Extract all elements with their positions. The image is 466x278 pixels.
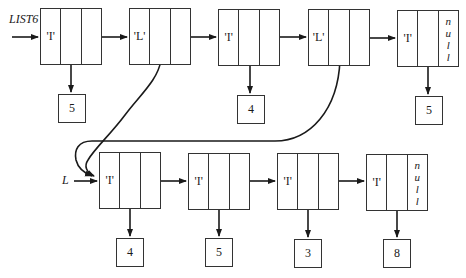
- next-pointer-cell: [140, 153, 160, 208]
- next-pointer-cell: [318, 154, 338, 209]
- value-box: 4: [116, 238, 144, 267]
- value-box: 5: [205, 238, 233, 267]
- value-pointer-cell: [208, 154, 228, 209]
- list6-node-4: 'L': [308, 9, 370, 66]
- null-letter: l: [416, 195, 419, 207]
- l-node-4: 'I' n u l l: [366, 154, 428, 211]
- l-node-3: 'I': [277, 153, 339, 210]
- value-box: 5: [415, 96, 443, 125]
- tag-cell: 'I': [278, 154, 297, 209]
- null-cell: n u l l: [407, 155, 427, 210]
- next-pointer-cell: [259, 10, 279, 65]
- null-letter: l: [447, 51, 450, 63]
- value-pointer-cell: [119, 153, 139, 208]
- null-letter: n: [415, 159, 421, 171]
- tag-cell: 'I': [100, 153, 119, 208]
- l-node-1: 'I': [99, 152, 161, 209]
- list6-node-2: 'L': [129, 8, 191, 65]
- list6-node-5: 'I' n u l l: [397, 10, 459, 67]
- value-pointer-cell: [60, 9, 80, 64]
- tag-cell: 'I': [189, 154, 208, 209]
- value-box: 8: [383, 239, 411, 268]
- tag-cell: 'L': [309, 10, 328, 65]
- value-pointer-cell: [238, 10, 258, 65]
- null-letter: u: [415, 171, 421, 183]
- l-node-2: 'I': [188, 153, 250, 210]
- value-pointer-cell: [417, 11, 437, 66]
- value-pointer-cell: [386, 155, 406, 210]
- list6-label: LIST6: [9, 12, 38, 27]
- linked-list-diagram: LIST6 L 'I' 'L' 'I' 'L' 'I' n u l l 5 4 …: [0, 0, 466, 278]
- tag-cell: 'I': [398, 11, 417, 66]
- tag-cell: 'I': [219, 10, 238, 65]
- sublist-pointer-cell: [328, 10, 348, 65]
- null-letter: n: [446, 15, 452, 27]
- value-box: 3: [294, 239, 322, 268]
- null-letter: u: [446, 27, 452, 39]
- list6-node-1: 'I': [40, 8, 102, 65]
- tag-cell: 'I': [367, 155, 386, 210]
- next-pointer-cell: [229, 154, 249, 209]
- value-box: 5: [58, 94, 86, 123]
- l-label: L: [62, 173, 69, 188]
- null-letter: l: [447, 39, 450, 51]
- value-box: 4: [237, 95, 265, 124]
- next-pointer-cell: [170, 9, 190, 64]
- next-pointer-cell: [349, 10, 369, 65]
- sublist-pointer-cell: [149, 9, 169, 64]
- next-pointer-cell: [81, 9, 101, 64]
- value-pointer-cell: [297, 154, 317, 209]
- null-letter: l: [416, 183, 419, 195]
- tag-cell: 'I': [41, 9, 60, 64]
- null-cell: n u l l: [438, 11, 458, 66]
- list6-node-3: 'I': [218, 9, 280, 66]
- tag-cell: 'L': [130, 9, 149, 64]
